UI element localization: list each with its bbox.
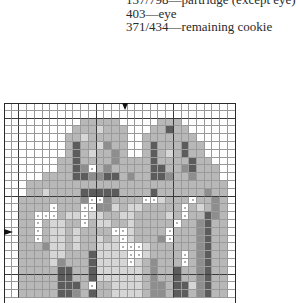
stitch-cell xyxy=(174,126,182,134)
stitch-cell xyxy=(228,126,236,134)
stitch-cell xyxy=(189,204,197,212)
stitch-cell xyxy=(228,282,236,290)
stitch-cell xyxy=(166,243,174,251)
stitch-cell xyxy=(104,158,112,166)
stitch-cell xyxy=(104,142,112,150)
bead-cell xyxy=(174,220,182,228)
stitch-cell xyxy=(220,111,228,119)
stitch-cell xyxy=(66,165,74,173)
stitch-cell xyxy=(66,259,74,267)
stitch-cell xyxy=(135,189,143,197)
stitch-cell xyxy=(158,251,166,259)
stitch-cell xyxy=(166,220,174,228)
stitch-cell xyxy=(58,212,66,220)
bead-cell xyxy=(89,282,97,290)
stitch-cell xyxy=(182,189,190,197)
stitch-cell xyxy=(19,236,27,244)
stitch-cell xyxy=(182,228,190,236)
stitch-cell xyxy=(205,267,213,275)
stitch-cell xyxy=(27,236,35,244)
bead-cell xyxy=(135,243,143,251)
stitch-cell xyxy=(220,282,228,290)
stitch-cell xyxy=(197,165,205,173)
stitch-cell xyxy=(197,267,205,275)
stitch-cell xyxy=(27,212,35,220)
stitch-cell xyxy=(58,290,66,298)
bead-cell xyxy=(128,251,136,259)
stitch-cell xyxy=(205,212,213,220)
stitch-cell xyxy=(12,251,20,259)
stitch-cell xyxy=(135,212,143,220)
stitch-cell xyxy=(182,165,190,173)
stitch-cell xyxy=(58,243,66,251)
stitch-cell xyxy=(143,150,151,158)
bead-cell xyxy=(166,236,174,244)
bead-cell xyxy=(128,259,136,267)
stitch-cell xyxy=(73,267,81,275)
stitch-cell xyxy=(58,228,66,236)
stitch-cell xyxy=(35,259,43,267)
stitch-cell xyxy=(182,126,190,134)
stitch-cell xyxy=(12,212,20,220)
stitch-cell xyxy=(104,228,112,236)
stitch-cell xyxy=(112,142,120,150)
stitch-cell xyxy=(97,204,105,212)
stitch-cell xyxy=(120,259,128,267)
stitch-cell xyxy=(66,197,74,205)
stitch-cell xyxy=(35,111,43,119)
stitch-cell xyxy=(189,220,197,228)
stitch-cell xyxy=(81,126,89,134)
stitch-cell xyxy=(228,119,236,127)
bead-cell xyxy=(112,228,120,236)
stitch-cell xyxy=(158,158,166,166)
stitch-cell xyxy=(212,204,220,212)
stitch-cell xyxy=(120,158,128,166)
stitch-cell xyxy=(81,165,89,173)
stitch-cell xyxy=(135,134,143,142)
stitch-cell xyxy=(4,119,12,127)
stitch-cell xyxy=(104,134,112,142)
stitch-cell xyxy=(97,126,105,134)
stitch-cell xyxy=(205,197,213,205)
stitch-cell xyxy=(43,275,51,283)
stitch-cell xyxy=(143,204,151,212)
stitch-cell xyxy=(205,251,213,259)
stitch-cell xyxy=(128,158,136,166)
stitch-cell xyxy=(220,220,228,228)
stitch-cell xyxy=(166,103,174,111)
stitch-cell xyxy=(197,173,205,181)
stitch-cell xyxy=(27,150,35,158)
stitch-cell xyxy=(89,181,97,189)
stitch-cell xyxy=(143,173,151,181)
stitch-cell xyxy=(12,181,20,189)
stitch-cell xyxy=(66,119,74,127)
stitch-cell xyxy=(12,243,20,251)
stitch-cell xyxy=(228,134,236,142)
stitch-cell xyxy=(143,267,151,275)
stitch-cell xyxy=(120,189,128,197)
stitch-cell xyxy=(174,236,182,244)
stitch-cell xyxy=(182,290,190,298)
stitch-cell xyxy=(205,243,213,251)
stitch-cell xyxy=(58,126,66,134)
stitch-cell xyxy=(43,243,51,251)
stitch-cell xyxy=(89,259,97,267)
stitch-cell xyxy=(158,173,166,181)
stitch-cell xyxy=(12,236,20,244)
stitch-cell xyxy=(89,126,97,134)
stitch-cell xyxy=(120,204,128,212)
stitch-cell xyxy=(27,173,35,181)
stitch-cell xyxy=(212,267,220,275)
stitch-cell xyxy=(27,197,35,205)
stitch-cell xyxy=(66,251,74,259)
stitch-cell xyxy=(4,189,12,197)
stitch-cell xyxy=(120,173,128,181)
stitch-cell xyxy=(66,134,74,142)
stitch-cell xyxy=(19,251,27,259)
stitch-cell xyxy=(35,197,43,205)
stitch-cell xyxy=(27,275,35,283)
stitch-cell xyxy=(66,204,74,212)
stitch-cell xyxy=(4,243,12,251)
stitch-cell xyxy=(97,119,105,127)
stitch-cell xyxy=(73,150,81,158)
